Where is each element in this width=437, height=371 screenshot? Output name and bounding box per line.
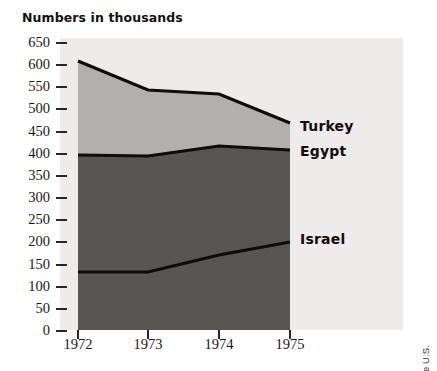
x-tick-label: 1975 bbox=[267, 336, 313, 353]
chart-figure: Numbers in thousands 650 600 550 500 450… bbox=[0, 0, 437, 371]
legend-label-israel: Israel bbox=[300, 231, 345, 247]
x-tick-label: 1972 bbox=[55, 336, 101, 353]
x-tick-label: 1974 bbox=[196, 336, 242, 353]
x-tick-label: 1973 bbox=[125, 336, 171, 353]
legend-label-turkey: Turkey bbox=[300, 118, 354, 134]
source-note: Source: Statistical Abstract of the U.S. bbox=[420, 345, 431, 371]
legend-label-egypt: Egypt bbox=[300, 143, 346, 159]
plot-area bbox=[0, 0, 437, 371]
